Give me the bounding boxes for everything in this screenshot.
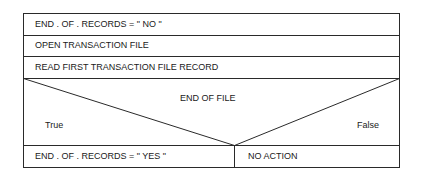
true-branch-action: END . OF . RECORDS = " YES " — [35, 152, 166, 161]
decision-diagonal-left — [24, 79, 235, 146]
nassi-shneiderman-diagram: END . OF . RECORDS = " NO " OPEN TRANSAC… — [0, 0, 422, 180]
decision-true-label: True — [45, 121, 63, 130]
false-branch-action: NO ACTION — [248, 152, 298, 161]
outer-frame — [24, 14, 400, 168]
step-read-first-record: READ FIRST TRANSACTION FILE RECORD — [35, 63, 218, 72]
decision-false-label: False — [357, 121, 379, 130]
decision-condition: END OF FILE — [180, 94, 236, 103]
decision-diagonal-right — [235, 79, 400, 146]
step-open-file: OPEN TRANSACTION FILE — [35, 41, 149, 50]
step-init-flag: END . OF . RECORDS = " NO " — [35, 20, 162, 29]
